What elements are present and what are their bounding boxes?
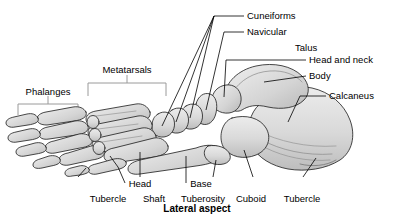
proximal-phalanx-5 xyxy=(88,159,126,175)
label-navicular: Navicular xyxy=(247,26,287,37)
label-calcaneus: Calcaneus xyxy=(329,90,374,101)
cuneiform-medial-bone xyxy=(152,112,175,137)
metatarsals-bracket xyxy=(88,75,166,96)
label-metatarsals: Metatarsals xyxy=(102,64,151,75)
middle-phalanx-2 xyxy=(8,129,40,143)
middle-phalanx-4 xyxy=(33,156,60,169)
figure-canvas: Phalanges Metatarsals Cuneiforms Navicul… xyxy=(0,0,395,217)
metatarsal-head-marker xyxy=(87,116,99,129)
bones xyxy=(6,64,353,176)
label-body: Body xyxy=(309,70,331,81)
label-phalanges: Phalanges xyxy=(26,86,71,97)
label-cuneiforms: Cuneiforms xyxy=(247,10,296,21)
label-head: Head xyxy=(129,178,152,189)
middle-phalanx-1 xyxy=(6,114,38,128)
label-base: Base xyxy=(190,178,212,189)
label-shaft: Shaft xyxy=(143,193,165,204)
distal-phalanx-5 xyxy=(65,166,89,177)
label-cuboid: Cuboid xyxy=(236,193,266,204)
label-tubercle-right: Tubercle xyxy=(284,193,321,204)
label-head-and-neck: Head and neck xyxy=(309,54,373,65)
middle-phalanx-3 xyxy=(16,143,46,157)
label-talus: Talus xyxy=(295,42,317,53)
label-tubercle-left: Tubercle xyxy=(90,193,127,204)
figure-caption: Lateral aspect xyxy=(163,203,230,214)
